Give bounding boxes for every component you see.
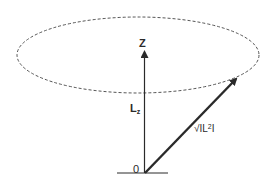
z-axis-label: Z [139, 38, 146, 49]
lz-label: Lz [130, 103, 140, 115]
lz-main: L [130, 102, 137, 114]
angular-momentum-vector-arrow [145, 79, 236, 173]
magnitude-suffix: I [212, 123, 215, 134]
magnitude-prefix: √IL [194, 123, 208, 134]
precession-ellipse [17, 17, 259, 93]
diagram-canvas [0, 0, 271, 188]
lz-subscript: z [137, 108, 141, 115]
origin-label: 0 [133, 164, 139, 175]
magnitude-label: √IL2I [194, 123, 215, 134]
